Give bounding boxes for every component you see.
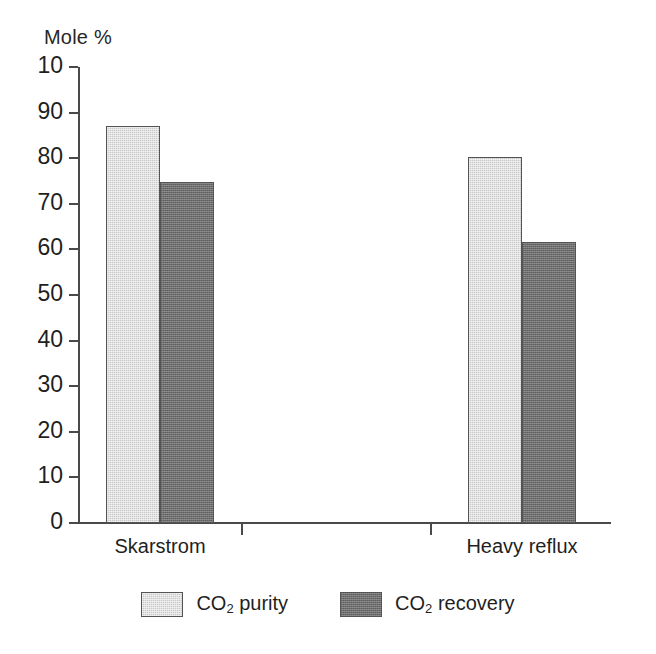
y-axis-tick-label: 90 [37, 98, 63, 124]
x-axis-category-label: Skarstrom [70, 534, 250, 558]
y-axis-tick-mark [69, 157, 78, 159]
y-axis-tick-label: 0 [50, 508, 63, 534]
legend-label: CO2 purity [196, 592, 288, 617]
y-axis-tick-label: 50 [37, 280, 63, 306]
bar-chart: Mole % 109080706050403020100 SkarstromHe… [0, 0, 656, 654]
x-axis-category-label: Heavy reflux [432, 534, 612, 558]
y-axis-tick-mark [69, 522, 78, 524]
y-axis-tick-mark [69, 112, 78, 114]
legend-item[interactable]: CO2 purity [141, 592, 288, 617]
y-axis-tick-mark [69, 476, 78, 478]
legend-swatch [340, 592, 382, 617]
y-axis-tick-label: 70 [37, 189, 63, 215]
legend-item[interactable]: CO2 recovery [340, 592, 514, 617]
bar[interactable] [160, 182, 214, 523]
bar[interactable] [106, 126, 160, 523]
y-axis-tick-label: 60 [37, 234, 63, 260]
y-axis-tick-mark [69, 203, 78, 205]
y-axis-tick-mark [69, 431, 78, 433]
bar[interactable] [468, 157, 522, 523]
y-axis-line [78, 67, 80, 524]
y-axis-tick-mark [69, 294, 78, 296]
y-axis-tick-mark [69, 248, 78, 250]
legend-swatch [141, 592, 183, 617]
y-axis-tick-mark [69, 66, 78, 68]
y-axis-tick-label: 80 [37, 143, 63, 169]
y-axis-tick-mark [69, 340, 78, 342]
y-axis-tick-label: 10 [37, 52, 63, 78]
bar[interactable] [522, 242, 576, 523]
y-axis-tick-label: 10 [37, 462, 63, 488]
y-axis-tick-label: 40 [37, 326, 63, 352]
y-axis-tick-label: 20 [37, 417, 63, 443]
chart-legend: CO2 purityCO2 recovery [0, 592, 656, 617]
y-axis-tick-label: 30 [37, 371, 63, 397]
legend-label: CO2 recovery [395, 592, 514, 617]
y-axis-tick-mark [69, 385, 78, 387]
y-axis-title: Mole % [44, 26, 112, 49]
